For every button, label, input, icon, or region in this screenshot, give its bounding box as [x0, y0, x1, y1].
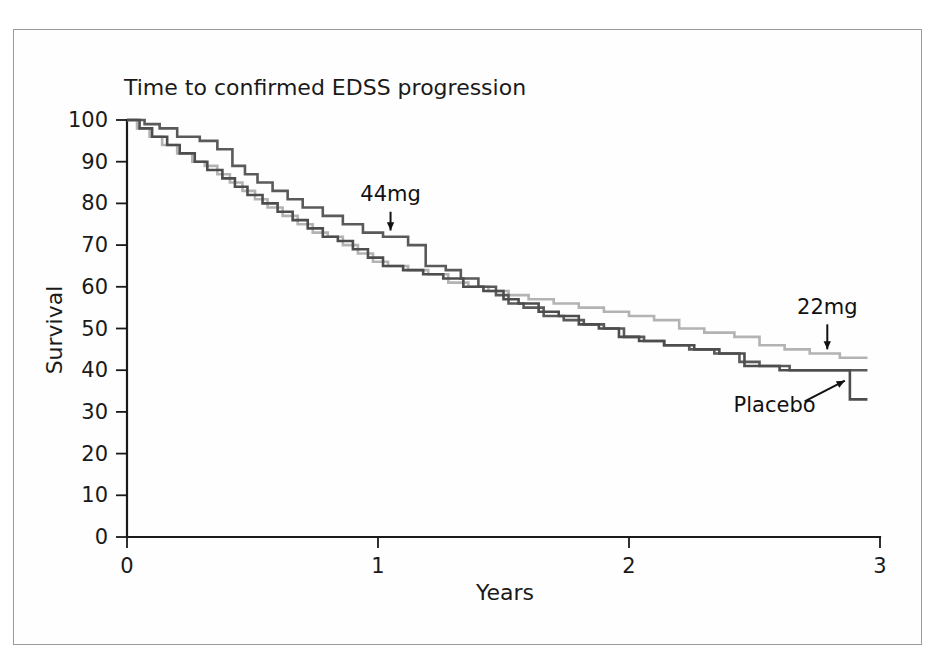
x-axis-title: Years — [475, 580, 534, 605]
annotation-arrow-head-44mg — [387, 222, 394, 230]
chart-title: Time to confirmed EDSS progression — [123, 75, 526, 100]
y-tick-label: 100 — [68, 108, 108, 132]
annotation-label-placebo: Placebo — [734, 393, 816, 417]
y-tick-label: 60 — [81, 275, 108, 299]
x-tick-label: 1 — [371, 554, 384, 578]
annotation-label-22mg: 22mg — [797, 295, 858, 319]
y-tick-label: 40 — [81, 358, 108, 382]
x-tick-label: 3 — [873, 554, 886, 578]
x-axis-ticks: 0123 — [120, 537, 886, 578]
y-tick-label: 20 — [81, 442, 108, 466]
curve-annotations-group: 44mg22mgPlacebo — [360, 182, 857, 417]
km-curves-group — [127, 120, 867, 399]
y-tick-label: 50 — [81, 317, 108, 341]
y-tick-label: 30 — [81, 400, 108, 424]
chart-title-group: Time to confirmed EDSS progression — [123, 75, 526, 100]
annotation-label-44mg: 44mg — [360, 182, 421, 206]
y-tick-label: 70 — [81, 233, 108, 257]
figure-root: Time to confirmed EDSS progression 01020… — [0, 0, 951, 660]
km-curve-22mg — [127, 120, 867, 358]
km-survival-chart: Time to confirmed EDSS progression 01020… — [0, 0, 951, 660]
y-tick-label: 10 — [81, 483, 108, 507]
y-tick-label: 0 — [95, 525, 108, 549]
x-tick-label: 2 — [622, 554, 635, 578]
y-axis-ticks: 0102030405060708090100 — [68, 108, 127, 549]
y-tick-label: 80 — [81, 191, 108, 215]
km-curve-44mg — [127, 120, 867, 370]
y-axis-title: Survival — [42, 286, 67, 375]
x-tick-label: 0 — [120, 554, 133, 578]
km-curve-placebo — [127, 120, 867, 399]
y-tick-label: 90 — [81, 150, 108, 174]
annotation-arrow-head-22mg — [824, 341, 831, 349]
